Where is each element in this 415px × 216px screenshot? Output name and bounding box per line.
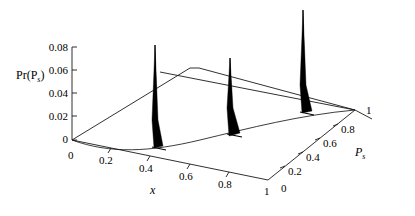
spike-2-body [227,58,240,136]
z-tick-label-0.02: 0.02 [34,111,68,122]
x-tick-label-0.2: 0.2 [99,155,113,166]
z-axis-title-main: Pr(P [16,68,37,82]
x-tick-label-0: 0 [68,150,74,161]
x-tick-label-0.8: 0.8 [218,179,232,190]
x-tick-0.8 [226,172,229,177]
ps-tick-label-0.8: 0.8 [341,124,355,135]
x-tick-label-0.6: 0.6 [179,171,193,182]
z-tick-label-0.08: 0.08 [34,42,68,53]
x-tick-marks [108,148,229,177]
z-axis-group [72,47,77,140]
z-tick-label-0.04: 0.04 [34,88,68,99]
x-axis-title: x [150,184,155,196]
z-tick-label-0: 0 [34,134,68,145]
z-axis-title: Pr(Ps) [16,69,44,84]
ridge-rising-flank [72,68,190,140]
ps-axis-title: Ps [355,146,365,161]
spike-3 [300,10,314,115]
spike-2 [227,58,242,137]
spike-1 [152,45,166,150]
base-edge-back-right [160,72,355,110]
ps-tick-label-0.4: 0.4 [306,152,320,163]
x-tick-label-0.4: 0.4 [139,163,153,174]
spike-3-base [300,112,314,115]
ps-axis-title-subscript: s [362,152,365,161]
ps-tick-label-0.2: 0.2 [288,166,302,177]
ps-tick-label-0.6: 0.6 [323,138,337,149]
ps-tick-label-1: 1 [366,105,372,116]
surface-ridge-lines [72,68,372,140]
ps-tick-label-0: 0 [281,183,287,194]
base-edge-back-left [72,72,160,140]
plot-canvas [0,0,415,216]
x-tick-0.6 [187,164,190,169]
ridge-falling-flank [199,68,355,110]
ps-axis-line [268,110,355,180]
z-axis-title-close: ) [40,68,44,82]
spike-1-body [152,45,163,148]
x-tick-0.4 [147,156,150,161]
figure-3d-surface-plot: 0.08 0.06 0.04 0.02 0 Pr(Ps) 0 0.2 0.4 0… [0,0,415,216]
x-tick-label-1: 1 [264,186,270,197]
base-plane-edges [72,72,355,180]
